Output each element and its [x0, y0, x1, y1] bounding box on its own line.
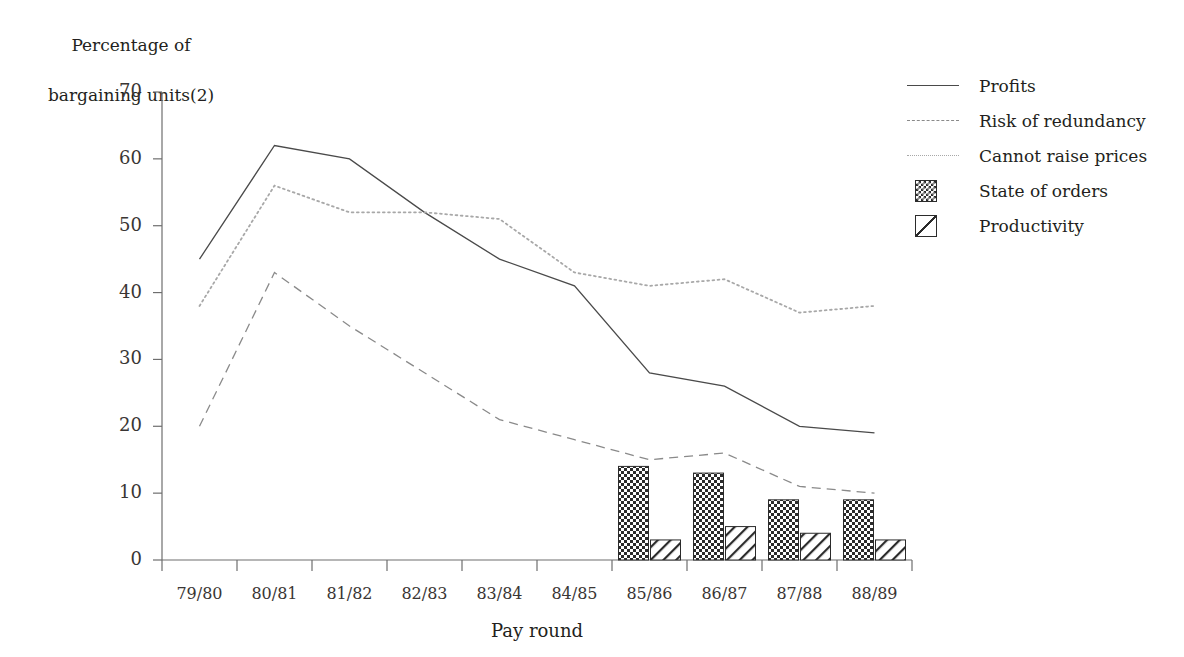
- bar-productivity-87-88: [801, 533, 831, 560]
- legend-item-profits[interactable]: Profits: [905, 72, 1175, 100]
- legend-item-state-of-orders[interactable]: State of orders: [905, 177, 1175, 205]
- y-tick-label: 0: [82, 548, 142, 569]
- bar-productivity-88-89: [876, 540, 906, 560]
- y-tick-label: 50: [82, 214, 142, 235]
- legend-item-cannot-raise-prices[interactable]: Cannot raise prices: [905, 142, 1175, 170]
- line-dotted-icon: [905, 145, 961, 167]
- y-tick-label: 70: [82, 80, 142, 101]
- y-tick-label: 30: [82, 347, 142, 368]
- chart-legend: Profits Risk of redundancy Cannot raise …: [905, 72, 1175, 247]
- line-solid-icon: [905, 75, 961, 97]
- legend-label: Cannot raise prices: [979, 146, 1147, 166]
- legend-label: Productivity: [979, 216, 1084, 236]
- legend-item-productivity[interactable]: Productivity: [905, 212, 1175, 240]
- chart-axes: [153, 92, 912, 571]
- legend-item-risk-of-redundancy[interactable]: Risk of redundancy: [905, 107, 1175, 135]
- chart-page: Percentage of bargaining units(2) 010203…: [0, 0, 1184, 657]
- x-tick-label: 88/89: [830, 584, 920, 603]
- line-risk-of-redundancy: [200, 273, 875, 494]
- legend-label: State of orders: [979, 181, 1108, 201]
- chart-lines: [200, 145, 875, 493]
- line-dashed-icon: [905, 110, 961, 132]
- y-tick-label: 20: [82, 414, 142, 435]
- bar-state-of-orders-87-88: [769, 500, 799, 560]
- bar-state-of-orders-88-89: [844, 500, 874, 560]
- y-tick-label: 40: [82, 281, 142, 302]
- line-cannot-raise-prices: [200, 186, 875, 313]
- bar-productivity-85-86: [651, 540, 681, 560]
- y-tick-label: 60: [82, 147, 142, 168]
- diagonal-hatch-swatch-icon: [905, 215, 961, 237]
- bar-state-of-orders-86-87: [694, 473, 724, 560]
- legend-label: Profits: [979, 76, 1036, 96]
- checkerboard-swatch-icon: [905, 180, 961, 202]
- bar-productivity-86-87: [726, 527, 756, 560]
- legend-label: Risk of redundancy: [979, 111, 1146, 131]
- bar-state-of-orders-85-86: [619, 466, 649, 560]
- line-profits: [200, 145, 875, 432]
- chart-bars: [619, 466, 906, 560]
- y-tick-label: 10: [82, 481, 142, 502]
- x-axis-title: Pay round: [417, 620, 657, 641]
